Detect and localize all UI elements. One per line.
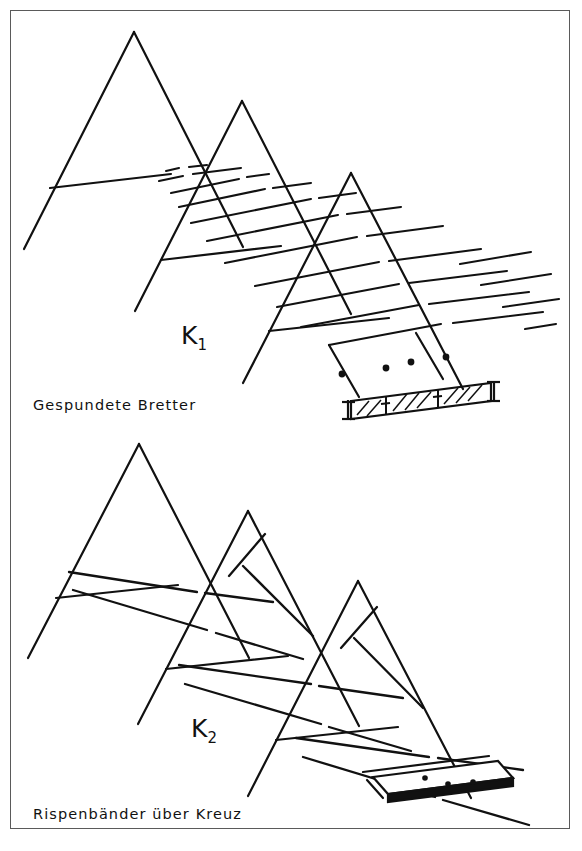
diagram-page: K1 Gespundete Bretter xyxy=(0,0,582,851)
detail-board-section-k1 xyxy=(329,333,500,420)
key-label-k1: K1 xyxy=(181,321,207,354)
truss-2-tie-k2 xyxy=(166,656,288,669)
board-edges-right-k1 xyxy=(460,252,559,329)
key-label-k1-subscript: 1 xyxy=(197,336,207,354)
truss-1-tie-k1 xyxy=(50,174,171,188)
truss-2-k1 xyxy=(135,101,351,314)
truss-1-k2 xyxy=(28,444,249,658)
board-lines-k1 xyxy=(159,165,543,345)
key-label-k2-letter: K xyxy=(191,714,207,743)
panel-k2: K2 Rispenbänder über Kreuz xyxy=(11,426,571,830)
caption-k1: Gespundete Bretter xyxy=(33,397,196,413)
key-label-k2: K2 xyxy=(191,714,217,747)
panel-k1: K1 Gespundete Bretter xyxy=(11,11,571,426)
page-frame: K1 Gespundete Bretter xyxy=(10,10,570,829)
strap-stubs-k2 xyxy=(229,534,423,708)
key-label-k2-subscript: 2 xyxy=(207,729,217,747)
key-label-k1-letter: K xyxy=(181,321,197,350)
truss-drawing-k2 xyxy=(11,426,571,830)
caption-k2: Rispenbänder über Kreuz xyxy=(33,806,242,822)
truss-3-tie-k1 xyxy=(269,318,389,331)
truss-drawing-k1 xyxy=(11,11,571,426)
truss-3-k2 xyxy=(248,581,471,798)
detail-steel-strap-k2 xyxy=(363,756,513,802)
truss-2-tie-k1 xyxy=(161,246,281,260)
truss-1-k1 xyxy=(24,32,243,249)
nail-dots-k1 xyxy=(339,354,450,378)
